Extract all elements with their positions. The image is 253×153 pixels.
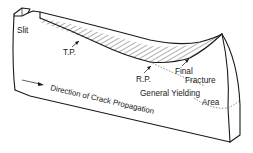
tp-arrowhead [75,41,79,45]
direction-arrow-shaft [22,80,40,84]
label-general-yielding: General Yielding [140,89,201,98]
direction-arrowhead [38,82,44,86]
fracture-diagram: Slit T.P. R.P. Final Fracture General Yi… [0,0,253,153]
label-fracture: Fracture [185,76,216,85]
label-slit: Slit [17,26,29,35]
label-final: Final [175,67,193,76]
label-rp: R.P. [136,75,151,84]
label-tp: T.P. [63,48,76,57]
hatched-fracture-area [30,0,230,80]
specimen-block [13,0,240,142]
label-area: Area [202,98,220,107]
left-edge [13,16,15,90]
